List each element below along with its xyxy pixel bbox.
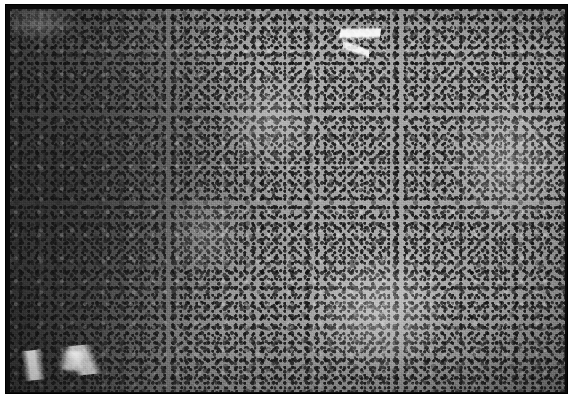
figure-page <box>0 0 575 410</box>
figure-caption <box>0 396 575 410</box>
vignette-layer <box>10 9 565 392</box>
micrograph-image <box>10 9 565 392</box>
